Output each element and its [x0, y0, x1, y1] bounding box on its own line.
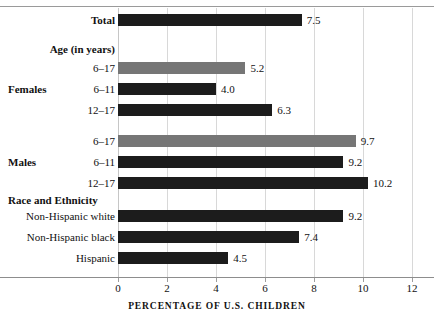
x-tick-label: 0	[103, 282, 133, 294]
bar	[118, 252, 228, 264]
row-label: Non-Hispanic white	[26, 208, 115, 224]
row-label: 12–17	[88, 175, 116, 191]
bar-value-label: 9.2	[348, 208, 362, 224]
section-heading-age: Age (in years)	[50, 41, 115, 57]
x-tick-label: 8	[299, 282, 329, 294]
group-label-males-row: Males	[0, 154, 434, 170]
chart-row: Non-Hispanic white9.2	[0, 208, 434, 224]
x-tick-label: 6	[250, 282, 280, 294]
row-label: 6–17	[93, 133, 115, 149]
row-label: 6–17	[93, 60, 115, 76]
row-label: Hispanic	[76, 250, 115, 266]
bar	[118, 14, 302, 26]
bar-chart: Total7.56–175.26–114.012–176.36–179.76–1…	[0, 0, 434, 325]
row-label: Total	[91, 12, 115, 28]
top-divider-rule	[0, 6, 434, 7]
bar	[118, 210, 343, 222]
chart-row: Non-Hispanic black7.4	[0, 229, 434, 245]
bar	[118, 104, 272, 116]
bar-value-label: 9.7	[361, 133, 375, 149]
bar-value-label: 4.5	[233, 250, 247, 266]
bar-value-label: 7.5	[307, 12, 321, 28]
bar	[118, 135, 356, 147]
bar	[118, 231, 299, 243]
x-axis-title: PERCENTAGE OF U.S. CHILDREN	[0, 301, 434, 311]
chart-row: Hispanic4.5	[0, 250, 434, 266]
group-label-females-row: Females	[0, 81, 434, 97]
bar-value-label: 6.3	[277, 102, 291, 118]
x-axis-line	[0, 277, 434, 278]
chart-row: 12–1710.2	[0, 175, 434, 191]
chart-row: 6–179.7	[0, 133, 434, 149]
group-label-males: Males	[8, 154, 36, 170]
x-tick-label: 4	[201, 282, 231, 294]
chart-row: 6–175.2	[0, 60, 434, 76]
section-heading-age-row: Age (in years)	[0, 41, 434, 57]
row-label: 12–17	[88, 102, 116, 118]
x-tick-label: 10	[348, 282, 378, 294]
x-tick-label: 12	[397, 282, 427, 294]
bar-value-label: 7.4	[304, 229, 318, 245]
bar	[118, 62, 245, 74]
group-label-females: Females	[8, 81, 46, 97]
bar	[118, 177, 368, 189]
x-tick-label: 2	[152, 282, 182, 294]
chart-row: Total7.5	[0, 12, 434, 28]
row-label: Non-Hispanic black	[27, 229, 115, 245]
bar-value-label: 10.2	[373, 175, 392, 191]
section-heading-race-row: Race and Ethnicity	[0, 192, 434, 208]
bar-value-label: 5.2	[250, 60, 264, 76]
section-heading-race: Race and Ethnicity	[8, 192, 98, 208]
chart-row: 12–176.3	[0, 102, 434, 118]
